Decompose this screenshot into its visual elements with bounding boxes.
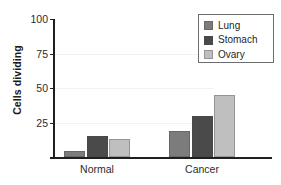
legend-swatch-icon bbox=[204, 21, 213, 30]
legend-item-label: Stomach bbox=[218, 35, 257, 45]
gridline bbox=[53, 54, 213, 55]
x-axis-line bbox=[50, 157, 272, 159]
legend-item-ovary[interactable]: Ovary bbox=[204, 48, 269, 62]
y-axis-tick-label: 75 bbox=[36, 48, 48, 60]
gridline bbox=[53, 88, 213, 89]
gridline bbox=[53, 123, 213, 124]
legend-item-label: Ovary bbox=[218, 50, 245, 60]
y-axis-tick-label: 25 bbox=[36, 117, 48, 129]
legend-item-label: Lung bbox=[218, 21, 240, 31]
bar-ovary-normal bbox=[109, 139, 130, 157]
legend-swatch-icon bbox=[204, 50, 213, 59]
y-axis-tick-mark bbox=[50, 123, 53, 124]
bar-lung-cancer bbox=[169, 131, 190, 157]
legend-swatch-icon bbox=[204, 36, 213, 45]
x-axis-label-normal: Normal bbox=[80, 163, 114, 175]
x-axis-label-cancer: Cancer bbox=[185, 163, 219, 175]
y-axis-tick-mark bbox=[50, 88, 53, 89]
y-axis-line bbox=[53, 19, 55, 157]
bar-chart: Cells dividing 100755025 NormalCancer Lu… bbox=[0, 0, 281, 185]
bar-ovary-cancer bbox=[214, 95, 235, 157]
legend: LungStomachOvary bbox=[198, 14, 274, 63]
y-axis-title: Cells dividing bbox=[4, 0, 30, 160]
y-axis-title-label: Cells dividing bbox=[11, 45, 23, 115]
y-axis-tick-label: 50 bbox=[36, 82, 48, 94]
bar-stomach-cancer bbox=[192, 116, 213, 157]
bar-stomach-normal bbox=[87, 136, 108, 157]
y-axis-tick-label: 100 bbox=[30, 13, 48, 25]
legend-item-lung[interactable]: Lung bbox=[204, 19, 269, 33]
y-axis-tick-mark bbox=[50, 19, 53, 20]
legend-item-stomach[interactable]: Stomach bbox=[204, 34, 269, 48]
bar-lung-normal bbox=[64, 151, 85, 157]
y-axis-tick-mark bbox=[50, 54, 53, 55]
